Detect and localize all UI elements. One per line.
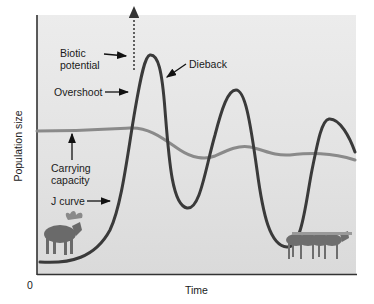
biotic-potential-line1: Biotic (60, 47, 100, 59)
moose-icon (44, 211, 83, 255)
origin-label: 0 (27, 279, 33, 291)
biotic-potential-line2: potential (60, 59, 100, 71)
chart-svg (0, 0, 374, 304)
carrying-capacity-line2: capacity (51, 174, 91, 186)
carrying-capacity-line1: Carrying (51, 162, 91, 174)
biotic-potential-pointer (104, 54, 126, 56)
overshoot-label: Overshoot (54, 86, 102, 98)
x-axis-label: Time (185, 284, 208, 296)
biotic-potential-label: Biotic potential (60, 47, 100, 71)
carrying-capacity-line (37, 128, 355, 160)
moose-herd-icon (286, 231, 352, 259)
carrying-capacity-label: Carrying capacity (51, 162, 91, 186)
y-axis-label: Population size (12, 106, 24, 186)
j-curve-label: J curve (51, 195, 85, 207)
dieback-label: Dieback (189, 58, 227, 70)
dieback-pointer (167, 64, 186, 77)
